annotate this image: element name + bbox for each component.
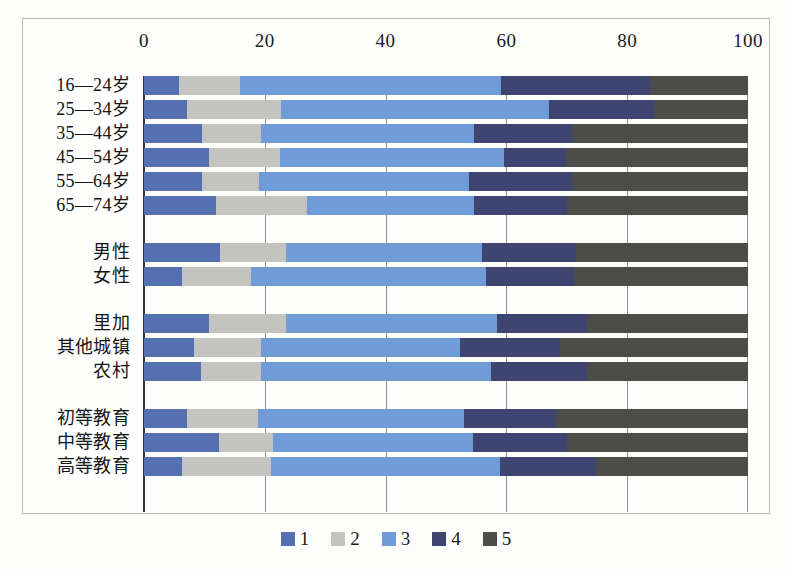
- y-axis-category-labels: 16—24岁25—34岁35—44岁45—54岁55—64岁65—74岁男性女性…: [0, 76, 138, 512]
- bar-segment-5: [596, 457, 748, 476]
- category-label: 高等教育: [57, 457, 130, 476]
- legend-item[interactable]: 4: [432, 528, 461, 550]
- bar-row: [144, 124, 748, 143]
- bar-segment-3: [281, 100, 549, 119]
- bar-segment-4: [473, 433, 568, 452]
- bar-segment-2: [220, 243, 286, 262]
- bar-segment-1: [144, 457, 182, 476]
- bar-row: [144, 433, 748, 452]
- bar-segment-3: [286, 314, 497, 333]
- bar-segment-4: [501, 76, 650, 95]
- category-label: 男性: [93, 243, 130, 262]
- bar-segment-3: [280, 148, 503, 167]
- legend-item[interactable]: 1: [281, 528, 310, 550]
- category-label: 45—54岁: [56, 148, 130, 167]
- bar-segment-3: [240, 76, 501, 95]
- bar-segment-5: [572, 124, 748, 143]
- category-label: 里加: [93, 314, 130, 333]
- bar-row: [144, 314, 748, 333]
- bar-segment-4: [497, 314, 587, 333]
- legend-label: 1: [300, 528, 310, 550]
- x-axis-tick-labels: 020406080100: [0, 30, 792, 56]
- legend-label: 3: [401, 528, 411, 550]
- bar-segment-4: [460, 338, 560, 357]
- bar-row: [144, 243, 748, 262]
- bar-segment-2: [209, 314, 286, 333]
- bar-segment-1: [144, 100, 187, 119]
- bar-segment-5: [576, 243, 748, 262]
- bar-segment-1: [144, 314, 209, 333]
- bar-segment-5: [567, 433, 748, 452]
- x-tick-label: 80: [617, 30, 637, 52]
- chart-legend: 12345: [0, 528, 792, 550]
- bar-segment-3: [286, 243, 482, 262]
- bar-row: [144, 100, 748, 119]
- bar-row: [144, 172, 748, 191]
- category-label: 农村: [93, 362, 130, 381]
- bar-segment-5: [587, 314, 748, 333]
- bar-segment-4: [486, 267, 574, 286]
- bar-segment-3: [307, 196, 474, 215]
- bar-row: [144, 362, 748, 381]
- bar-row: [144, 76, 748, 95]
- x-tick-label: 100: [733, 30, 763, 52]
- legend-item[interactable]: 3: [382, 528, 411, 550]
- category-label: 35—44岁: [56, 124, 130, 143]
- legend-label: 4: [451, 528, 461, 550]
- bar-segment-1: [144, 148, 209, 167]
- bar-row: [144, 196, 748, 215]
- bar-row: [144, 267, 748, 286]
- bar-segment-2: [187, 100, 280, 119]
- legend-label: 5: [502, 528, 512, 550]
- bar-segment-1: [144, 362, 201, 381]
- x-tick-label: 40: [376, 30, 396, 52]
- bar-segment-1: [144, 433, 219, 452]
- bar-segment-3: [271, 457, 501, 476]
- category-label: 25—34岁: [56, 100, 130, 119]
- plot-area: [144, 76, 748, 512]
- bar-segment-3: [261, 362, 491, 381]
- category-label: 其他城镇: [57, 338, 130, 357]
- bar-row: [144, 338, 748, 357]
- bar-segment-2: [179, 76, 240, 95]
- bar-segment-3: [261, 338, 461, 357]
- bar-segment-3: [258, 409, 465, 428]
- bar-segment-5: [587, 362, 748, 381]
- bar-segment-5: [556, 409, 748, 428]
- bar-row: [144, 457, 748, 476]
- legend-item[interactable]: 5: [483, 528, 512, 550]
- category-label: 55—64岁: [56, 172, 130, 191]
- legend-swatch-icon: [483, 532, 497, 546]
- bar-segment-2: [202, 124, 261, 143]
- legend-item[interactable]: 2: [331, 528, 360, 550]
- bar-segment-1: [144, 267, 182, 286]
- bar-segment-2: [216, 196, 307, 215]
- bar-segment-2: [219, 433, 273, 452]
- bar-segment-4: [504, 148, 566, 167]
- chart-page: 020406080100 16—24岁25—34岁35—44岁45—54岁55—…: [0, 0, 792, 571]
- legend-label: 2: [350, 528, 360, 550]
- bar-segment-2: [194, 338, 260, 357]
- bar-segment-5: [566, 148, 748, 167]
- bar-segment-2: [182, 457, 271, 476]
- bar-segment-3: [273, 433, 473, 452]
- bar-segment-1: [144, 124, 202, 143]
- bar-segment-4: [482, 243, 576, 262]
- bar-segment-4: [474, 196, 568, 215]
- legend-swatch-icon: [331, 532, 345, 546]
- bar-segment-1: [144, 172, 202, 191]
- bar-row: [144, 148, 748, 167]
- bar-segment-3: [259, 172, 469, 191]
- bar-segment-2: [201, 362, 261, 381]
- bar-segment-5: [574, 267, 748, 286]
- category-label: 初等教育: [57, 409, 130, 428]
- x-tick-label: 20: [255, 30, 275, 52]
- stacked-bar-rows: [144, 76, 748, 512]
- bar-segment-5: [567, 196, 748, 215]
- bar-segment-1: [144, 338, 194, 357]
- bar-segment-4: [500, 457, 595, 476]
- bar-segment-4: [464, 409, 556, 428]
- bar-segment-4: [491, 362, 588, 381]
- legend-swatch-icon: [382, 532, 396, 546]
- bar-segment-3: [251, 267, 486, 286]
